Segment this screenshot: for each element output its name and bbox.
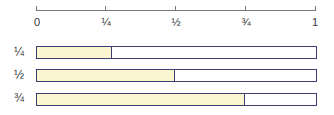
- bar-label-half: ½: [14, 68, 24, 82]
- fraction-bar-three-quarters: [36, 93, 317, 106]
- tick-label-0: 0: [34, 16, 40, 28]
- tick-0: [36, 6, 37, 11]
- tick-label-three-quarters: ¾: [241, 16, 250, 28]
- bar-fill-quarter: [37, 47, 112, 58]
- bar-fill-half: [37, 70, 175, 81]
- tick-three-quarters: [245, 6, 246, 11]
- tick-label-quarter: ¼: [101, 16, 110, 28]
- fraction-bar-quarter: [36, 46, 317, 59]
- axis-line: [36, 10, 316, 11]
- fraction-bar-half: [36, 69, 317, 82]
- tick-label-1: 1: [312, 16, 318, 28]
- bar-label-quarter: ¼: [14, 45, 24, 59]
- tick-quarter: [105, 6, 106, 11]
- bar-label-three-quarters: ¾: [14, 91, 24, 105]
- tick-half: [175, 6, 176, 11]
- bar-fill-three-quarters: [37, 94, 245, 105]
- tick-label-half: ½: [171, 16, 180, 28]
- tick-1: [315, 6, 316, 11]
